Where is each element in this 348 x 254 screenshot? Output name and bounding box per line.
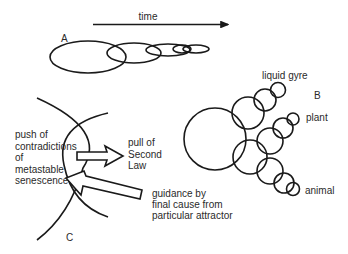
- circle-gyre-1: [232, 97, 264, 129]
- panel-c-label: C: [66, 232, 73, 243]
- circle-junction: [233, 140, 267, 174]
- push-text: push of contradictions of metastable sen…: [13, 129, 81, 187]
- circle-root: [184, 108, 246, 170]
- label-liquid-gyre: liquid gyre: [262, 70, 308, 81]
- ellipse-5: [183, 45, 209, 53]
- circle-gyre-3: [271, 83, 286, 98]
- svg-text:senescence: senescence: [15, 175, 69, 186]
- svg-text:particular attractor: particular attractor: [152, 210, 233, 221]
- svg-text:pull of: pull of: [128, 137, 155, 148]
- guidance-text: guidance by final cause from particular …: [152, 188, 233, 221]
- circle-plant-1: [257, 128, 283, 154]
- panel-b: liquid gyre B plant animal: [184, 70, 334, 196]
- diagram-canvas: time A liquid gyre B plant animal: [0, 0, 348, 254]
- panel-a: time A: [50, 11, 228, 73]
- svg-text:push of: push of: [15, 129, 48, 140]
- circle-animal-3: [287, 183, 300, 196]
- panel-a-label: A: [61, 33, 68, 44]
- svg-text:final cause from: final cause from: [152, 199, 223, 210]
- panel-b-label: B: [314, 90, 321, 101]
- pull-text: pull of Second Law: [128, 137, 162, 171]
- svg-text:of: of: [15, 152, 24, 163]
- time-label: time: [139, 11, 158, 22]
- svg-text:Law: Law: [128, 160, 147, 171]
- svg-text:metastable: metastable: [15, 164, 64, 175]
- panel-c: push of contradictions of metastable sen…: [13, 98, 233, 243]
- circle-plant-2: [273, 118, 293, 138]
- pull-arrow: [77, 146, 123, 166]
- svg-text:guidance by: guidance by: [152, 188, 206, 199]
- svg-text:contradictions: contradictions: [15, 141, 77, 152]
- label-animal: animal: [305, 185, 334, 196]
- svg-text:Second: Second: [128, 149, 162, 160]
- label-plant: plant: [306, 112, 328, 123]
